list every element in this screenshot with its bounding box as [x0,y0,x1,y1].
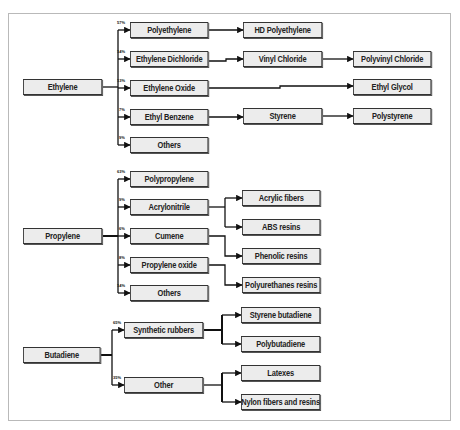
node-ethyl-benzene: Ethyl Benzene [130,109,208,125]
node-label: Nylon fibers and resins [241,397,320,407]
node-label: Vinyl Chloride [259,54,307,64]
node-abs-resins: ABS resins [242,219,320,235]
node-label: Polypropylene [145,174,194,184]
node-styrene-butadiene: Styrene butadiene [241,307,320,323]
pct-acrylonitrile: 9% [119,198,125,202]
pct-synthetic-rubbers: 65% [113,321,121,325]
node-label: HD Polyethylene [254,25,310,35]
node-label: Ethyl Glycol [372,82,413,92]
node-label: Polyurethanes resins [245,280,317,290]
node-ethylene-oxide: Ethylene Oxide [130,80,208,96]
pct-polypropylene: 63% [117,170,125,174]
node-butadiene-other: Other [124,377,203,393]
node-label: Ethylene [48,82,78,92]
node-propylene: Propylene [23,228,102,244]
node-label: Propylene [45,231,80,241]
node-hd-polyethylene: HD Polyethylene [243,22,322,38]
node-label: Latexes [267,368,294,378]
node-label: Ethylene Dichloride [136,54,202,64]
pct-cumene: 6% [119,227,125,231]
pct-ethylene-dichloride: 14% [117,50,125,54]
pct-propylene-others: 14% [117,284,125,288]
node-label: Cumene [155,231,183,241]
node-ethyl-glycol: Ethyl Glycol [353,79,431,95]
node-phenolic-resins: Phenolic resins [242,248,320,264]
node-butadiene: Butadiene [23,347,100,363]
node-polypropylene: Polypropylene [130,171,208,187]
pct-ethylene-oxide: 13% [117,79,125,83]
node-label: Polybutadiene [256,339,305,349]
pct-ethylene-others: 9% [119,136,125,140]
node-synthetic-rubbers: Synthetic rubbers [124,322,203,338]
node-label: Others [158,288,181,298]
node-label: Others [158,140,181,150]
node-label: Ethyl Benzene [145,112,194,122]
node-label: Polyvinyl Chloride [361,54,423,64]
node-ethylene-dichloride: Ethylene Dichloride [130,51,208,67]
node-acrylonitrile: Acrylonitrile [130,199,208,215]
pct-propylene-oxide: 8% [119,256,125,260]
node-label: Polystyrene [372,111,412,121]
node-label: Phenolic resins [255,251,308,261]
node-label: Butadiene [44,350,79,360]
node-polyethylene: Polyethylene [130,22,208,38]
node-polyurethanes-resins: Polyurethanes resins [242,277,320,293]
node-ethylene-others: Others [130,137,208,153]
node-propylene-others: Others [130,285,208,301]
node-cumene: Cumene [130,228,208,244]
node-label: ABS resins [262,222,300,232]
node-label: Styrene butadiene [250,310,312,320]
pct-butadiene-other: 35% [113,376,121,380]
node-polybutadiene: Polybutadiene [241,336,320,352]
node-label: Ethylene Oxide [143,83,195,93]
node-acrylic-fibers: Acrylic fibers [242,190,320,206]
node-styrene: Styrene [243,108,322,124]
pct-polyethylene: 57% [117,21,125,25]
node-label: Styrene [269,111,295,121]
node-polystyrene: Polystyrene [353,108,431,124]
node-label: Acrylic fibers [259,193,304,203]
pct-ethyl-benzene: 7% [119,108,125,112]
node-propylene-oxide: Propylene oxide [130,257,208,273]
node-label: Propylene oxide [142,260,197,270]
node-label: Synthetic rubbers [133,325,194,335]
node-label: Other [154,380,173,390]
node-label: Polyethylene [147,25,191,35]
node-polyvinyl-chloride: Polyvinyl Chloride [353,51,431,67]
node-nylon-fibers-and-resins: Nylon fibers and resins [241,394,320,410]
node-latexes: Latexes [241,365,320,381]
node-label: Acrylonitrile [148,202,189,212]
node-vinyl-chloride: Vinyl Chloride [243,51,322,67]
node-ethylene: Ethylene [23,79,102,95]
